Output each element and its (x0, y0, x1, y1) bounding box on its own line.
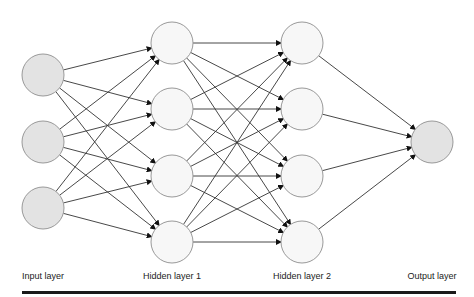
connection-edge (60, 56, 156, 129)
neuron-node-layer1-1 (151, 88, 193, 130)
connection-edge (56, 60, 159, 192)
neuron-node-layer1-0 (151, 22, 193, 64)
neuron-node-layer1-2 (151, 155, 193, 197)
network-graph (0, 0, 474, 297)
connection-edge (63, 213, 151, 236)
connection-edge (63, 48, 151, 70)
layer-label-output: Output layer (407, 271, 456, 281)
neuron-node-layer2-0 (281, 22, 323, 64)
layer-label-input: Input layer (22, 271, 64, 281)
layer-label-hidden-1: Hidden layer 1 (143, 271, 201, 281)
neuron-node-layer2-1 (281, 88, 323, 130)
neuron-node-layer0-2 (22, 187, 64, 229)
connection-edge (63, 181, 151, 203)
bottom-rule-divider (22, 291, 456, 294)
neuron-node-layer2-2 (281, 155, 323, 197)
connection-edge (60, 122, 156, 195)
connection-edge (322, 114, 411, 137)
layer-label-hidden-2: Hidden layer 2 (273, 271, 331, 281)
connection-edge (319, 56, 416, 130)
connection-edge (319, 155, 416, 229)
neural-network-diagram: Input layer Hidden layer 1 Hidden layer … (0, 0, 474, 297)
connection-edge (322, 147, 411, 170)
neuron-node-layer1-3 (151, 221, 193, 263)
edges (56, 43, 416, 242)
neuron-node-layer3-0 (411, 121, 453, 163)
neuron-node-layer0-1 (22, 121, 64, 163)
neuron-node-layer0-0 (22, 54, 64, 96)
neuron-node-layer2-3 (281, 221, 323, 263)
